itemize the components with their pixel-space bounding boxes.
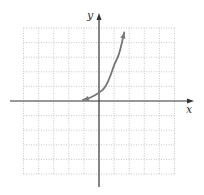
x-axis (10, 99, 194, 104)
y-axis (97, 13, 102, 187)
coordinate-plane (0, 0, 204, 195)
y-axis-arrow-icon (97, 13, 102, 20)
x-axis-label: x (186, 103, 192, 116)
y-axis-label: y (87, 9, 93, 22)
